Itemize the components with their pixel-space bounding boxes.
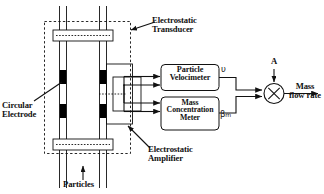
- mass-concentration-symbol-label: βm: [220, 110, 231, 119]
- meter-output-lines: [219, 78, 262, 114]
- electrostatic-amplifier-label-line2: Amplifier: [148, 153, 183, 163]
- particle-velocimeter-label-line2: Velocimeter: [170, 73, 210, 82]
- electrostatic-amplifier-label: Electrostatic Amplifier: [148, 145, 214, 163]
- mass-concentration-meter-label: Mass Concentration Meter: [160, 99, 220, 123]
- signal-lines-to-meters: [124, 77, 160, 112]
- velocity-symbol-label: υ: [221, 65, 226, 74]
- mass-concentration-meter-label-line3: Meter: [180, 113, 200, 122]
- diagram-canvas: Electrostatic Transducer Circular Electr…: [0, 0, 324, 194]
- beta-subscript: m: [225, 111, 231, 118]
- leader-line-circular-electrode: [34, 82, 62, 101]
- electrostatic-transducer-label-line2: Transducer: [152, 24, 193, 34]
- particles-label: Particles: [63, 180, 94, 189]
- electrostatic-transducer-label: Electrostatic Transducer: [152, 16, 214, 34]
- circular-electrode-label: Circular Electrode: [2, 101, 48, 119]
- particle-velocimeter-label: Particle Velocimeter: [161, 66, 219, 83]
- leader-line-amplifier: [128, 126, 150, 148]
- transducer-upper-collar: [53, 30, 113, 41]
- multiplier-top-input-label: A: [271, 57, 277, 66]
- mass-flow-rate-label-line2: flow rate: [289, 90, 321, 100]
- multiplier-node: [264, 84, 284, 104]
- circular-electrode-label-line2: Electrode: [2, 109, 36, 119]
- transducer-lower-collar: [53, 139, 113, 150]
- mass-flow-rate-label: Mass flow rate: [286, 82, 324, 100]
